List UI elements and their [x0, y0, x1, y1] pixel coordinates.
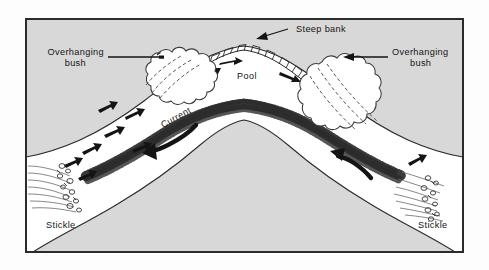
label-pool: Pool [237, 71, 257, 81]
label-overhanging-bush-left-line1: Overhanging [48, 47, 104, 57]
label-overhanging-bush-left-line2: bush [65, 58, 86, 68]
label-overhanging-bush-right-line2: bush [410, 58, 431, 68]
label-overhanging-bush-right-line1: Overhanging [392, 47, 448, 57]
label-steep-bank: Steep bank [296, 24, 346, 34]
river-meander-diagram: Steep bank Overhanging bush Overhanging … [0, 0, 489, 270]
label-stickle-right: Stickle [418, 220, 448, 230]
label-stickle-left: Stickle [46, 220, 76, 230]
